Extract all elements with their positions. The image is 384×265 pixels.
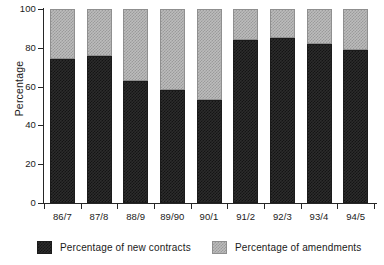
legend-label-new-contracts: Percentage of new contracts xyxy=(60,242,191,253)
bar-segment xyxy=(270,9,295,38)
bar-segment xyxy=(87,9,112,56)
bar-segment xyxy=(307,9,332,44)
y-tick-label: 40 xyxy=(0,120,36,130)
x-tick-mark xyxy=(81,204,82,209)
x-tick-mark xyxy=(374,204,375,209)
bar-group xyxy=(343,9,368,203)
bar-group xyxy=(87,9,112,203)
bar-segment xyxy=(233,40,258,203)
bar-group xyxy=(50,9,75,203)
bar-group xyxy=(160,9,185,203)
x-tick-label: 94/5 xyxy=(326,212,384,222)
bar-group xyxy=(197,9,222,203)
stacked-bar-chart: Percentage 020406080100 86/787/888/989/9… xyxy=(0,0,384,265)
y-tick-label: 20 xyxy=(0,159,36,169)
bar-segment xyxy=(123,9,148,81)
y-tick-label: 80 xyxy=(0,43,36,53)
bar-segment xyxy=(197,100,222,203)
bar-group xyxy=(123,9,148,203)
legend-item-amendments: Percentage of amendments xyxy=(212,239,361,255)
bar-segment xyxy=(343,50,368,203)
legend-item-new-contracts: Percentage of new contracts xyxy=(37,239,191,255)
x-tick-mark xyxy=(264,204,265,209)
legend-label-amendments: Percentage of amendments xyxy=(235,242,361,253)
bar-segment xyxy=(87,56,112,203)
bar-segment xyxy=(233,9,258,40)
y-tick-label: 60 xyxy=(0,82,36,92)
x-tick-mark xyxy=(44,204,45,209)
bar-group xyxy=(307,9,332,203)
bar-group xyxy=(233,9,258,203)
bar-segment xyxy=(343,9,368,50)
legend-swatch-new-contracts xyxy=(37,241,52,254)
plot-area xyxy=(44,9,374,203)
x-axis-line xyxy=(43,203,377,204)
legend-swatch-amendments xyxy=(212,241,227,254)
bar-segment xyxy=(50,59,75,203)
x-tick-mark xyxy=(227,204,228,209)
bar-segment xyxy=(160,9,185,90)
bar-segment xyxy=(307,44,332,203)
bar-segment xyxy=(270,38,295,203)
bar-segment xyxy=(160,90,185,203)
chart-legend: Percentage of new contracts Percentage o… xyxy=(0,239,384,259)
bar-segment xyxy=(123,81,148,203)
bar-segment xyxy=(50,9,75,59)
y-tick-label: 0 xyxy=(0,198,36,208)
x-tick-mark xyxy=(154,204,155,209)
x-tick-mark xyxy=(301,204,302,209)
bar-group xyxy=(270,9,295,203)
x-tick-mark xyxy=(337,204,338,209)
x-tick-mark xyxy=(117,204,118,209)
y-tick-label: 100 xyxy=(0,4,36,14)
bar-segment xyxy=(197,9,222,100)
x-tick-mark xyxy=(191,204,192,209)
